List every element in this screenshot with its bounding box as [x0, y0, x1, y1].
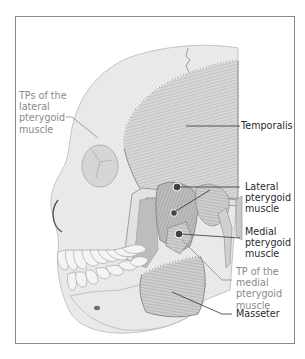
label-medial-pterygoid: Medial pterygoid muscle [245, 226, 291, 260]
label-tp-medial-pterygoid: TP of the medial pterygoid muscle [236, 266, 282, 311]
label-lateral-pterygoid: Lateral pterygoid muscle [245, 181, 291, 215]
label-masseter: Masseter [236, 308, 280, 319]
label-tps-lateral-pterygoid: TPs of the lateral pterygoid muscle [19, 90, 67, 135]
label-temporalis: Temporalis [241, 120, 293, 131]
